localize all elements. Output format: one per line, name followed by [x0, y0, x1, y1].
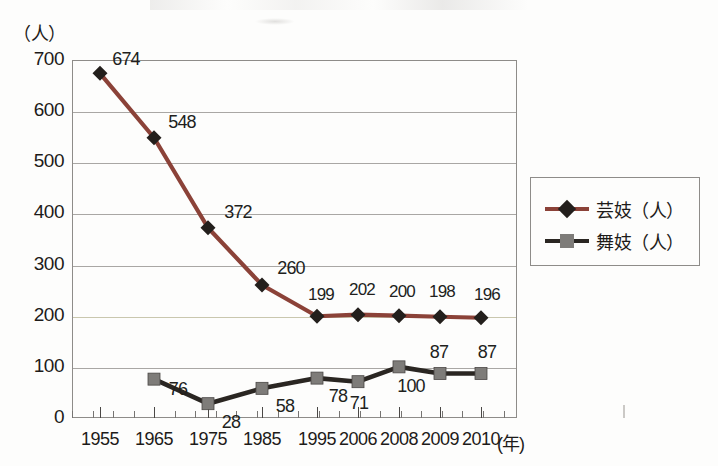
gridline-500 — [73, 163, 516, 164]
x-tick-minor — [298, 411, 299, 418]
legend-item-geiko[interactable]: 芸妓（人） — [545, 196, 684, 222]
data-label-geiko-1995: 199 — [308, 285, 334, 305]
data-label-geiko-2006: 202 — [349, 280, 375, 300]
legend-key-geiko — [545, 199, 589, 219]
legend-label-geiko: 芸妓（人） — [596, 196, 684, 222]
diamond-marker-icon — [558, 200, 576, 218]
x-tick-minor — [339, 411, 340, 418]
x-tick-minor — [319, 411, 320, 418]
x-tick-label-2008: 2008 — [380, 429, 418, 450]
data-label-geiko-1975: 372 — [224, 201, 252, 222]
x-tick-2010 — [481, 407, 482, 418]
data-label-maiko-2006: 71 — [350, 392, 368, 413]
square-marker-icon — [560, 234, 574, 248]
data-label-maiko-2010: 87 — [478, 341, 496, 362]
x-tick-1955 — [100, 407, 101, 418]
y-tick-label-700: 700 — [8, 48, 64, 70]
scan-artifact-tick — [623, 405, 625, 418]
x-tick-minor — [257, 411, 258, 418]
x-tick-minor — [175, 411, 176, 418]
x-tick-label-2009: 2009 — [421, 429, 459, 450]
y-tick-label-600: 600 — [8, 99, 64, 121]
x-tick-label-2006: 2006 — [339, 429, 377, 450]
data-label-geiko-2010: 196 — [474, 285, 500, 305]
y-tick-label-400: 400 — [8, 201, 64, 223]
x-tick-label-2010: 2010 — [462, 429, 500, 450]
y-tick-label-300: 300 — [8, 253, 64, 275]
x-tick-2008 — [399, 407, 400, 418]
chart-legend: 芸妓（人） 舞妓（人） — [530, 177, 700, 266]
x-tick-2009 — [440, 407, 441, 418]
x-axis-unit-label: (年) — [497, 429, 524, 455]
scan-artifact-smudge — [255, 18, 295, 25]
x-tick-minor — [216, 411, 217, 418]
x-tick-minor — [401, 411, 402, 418]
data-label-maiko-1965: 76 — [169, 379, 187, 400]
data-label-geiko-1985: 260 — [277, 258, 305, 279]
y-tick-label-0: 0 — [8, 406, 64, 428]
x-tick-minor — [504, 411, 505, 418]
data-label-geiko-1955: 674 — [112, 49, 140, 70]
x-tick-minor — [72, 411, 73, 418]
data-label-maiko-2008: 100 — [397, 375, 425, 396]
data-label-geiko-2008: 200 — [389, 282, 415, 302]
x-tick-1985 — [262, 407, 263, 418]
x-tick-minor — [380, 411, 381, 418]
x-tick-label-1985: 1985 — [243, 429, 281, 450]
x-tick-minor — [195, 411, 196, 418]
x-tick-1995 — [317, 407, 318, 418]
data-label-geiko-1965: 548 — [168, 111, 196, 132]
data-label-maiko-2009: 87 — [430, 341, 448, 362]
x-tick-minor — [462, 411, 463, 418]
x-tick-minor — [483, 411, 484, 418]
x-tick-minor — [421, 411, 422, 418]
x-tick-minor — [93, 411, 94, 418]
data-label-maiko-1995: 78 — [329, 386, 347, 407]
chart-page: （人） 7006005004003002001000 1955196519751… — [0, 0, 718, 466]
x-tick-minor — [113, 411, 114, 418]
legend-key-maiko — [545, 231, 589, 251]
x-tick-1975 — [208, 407, 209, 418]
gridline-100 — [73, 368, 516, 369]
x-tick-label-1995: 1995 — [298, 429, 336, 450]
gridline-400 — [73, 214, 516, 215]
data-label-geiko-2009: 198 — [429, 282, 455, 302]
data-label-maiko-1975: 28 — [222, 411, 240, 432]
x-tick-1965 — [154, 407, 155, 418]
x-tick-label-1965: 1965 — [135, 429, 173, 450]
scan-artifact-top — [150, 0, 580, 10]
x-tick-minor — [442, 411, 443, 418]
y-tick-label-100: 100 — [8, 355, 64, 377]
x-tick-minor — [134, 411, 135, 418]
legend-item-maiko[interactable]: 舞妓（人） — [545, 228, 684, 254]
y-axis-unit-label: （人） — [13, 19, 66, 45]
x-tick-label-1955: 1955 — [81, 429, 119, 450]
gridline-600 — [73, 112, 516, 113]
y-tick-label-200: 200 — [8, 304, 64, 326]
y-tick-label-500: 500 — [8, 150, 64, 172]
gridline-200 — [73, 317, 516, 318]
legend-label-maiko: 舞妓（人） — [596, 228, 684, 254]
data-label-maiko-1985: 58 — [276, 396, 294, 417]
plot-area — [72, 60, 517, 418]
